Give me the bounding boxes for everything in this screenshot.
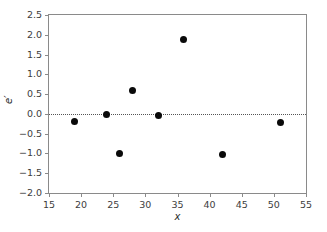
- x-axis-tick: [210, 193, 211, 197]
- y-axis-tick-label: −1.5: [19, 168, 42, 178]
- x-axis-tick-label: 55: [300, 200, 312, 210]
- y-axis-tick-label: −2.0: [19, 188, 42, 198]
- x-axis-tick-label: 40: [204, 200, 216, 210]
- y-axis-tick: [45, 134, 49, 135]
- scatter-plot-figure: −2.0−1.5−1.0−0.50.00.51.01.52.02.5152025…: [0, 0, 327, 232]
- y-axis-tick-label: −1.0: [19, 149, 42, 159]
- y-axis-tick-label: 2.5: [27, 10, 42, 20]
- x-axis-tick: [306, 193, 307, 197]
- data-point: [103, 111, 110, 118]
- x-axis-tick: [81, 193, 82, 197]
- data-point: [277, 119, 284, 126]
- y-axis-tick-label: −0.5: [19, 129, 42, 139]
- x-axis-tick-label: 25: [107, 200, 119, 210]
- x-axis-tick-label: 45: [236, 200, 248, 210]
- x-axis-tick-label: 30: [139, 200, 151, 210]
- y-axis-tick-label: 1.5: [27, 50, 42, 60]
- data-point: [129, 87, 136, 94]
- x-axis-tick: [145, 193, 146, 197]
- zero-reference-line: [49, 114, 306, 115]
- y-axis-tick: [45, 173, 49, 174]
- y-axis-tick: [45, 55, 49, 56]
- y-axis-tick: [45, 114, 49, 115]
- x-axis-tick-label: 15: [43, 200, 55, 210]
- data-point: [116, 150, 123, 157]
- y-axis-title: e′: [4, 96, 14, 104]
- x-axis-tick-label: 35: [171, 200, 183, 210]
- x-axis-tick: [178, 193, 179, 197]
- y-axis-tick: [45, 35, 49, 36]
- x-axis-tick-label: 50: [268, 200, 280, 210]
- x-axis-tick: [242, 193, 243, 197]
- y-axis-tick: [45, 153, 49, 154]
- x-axis-tick: [113, 193, 114, 197]
- data-point: [180, 36, 187, 43]
- y-axis-tick: [45, 15, 49, 16]
- x-axis-title: x: [48, 212, 307, 222]
- plot-area: −2.0−1.5−1.0−0.50.00.51.01.52.02.5152025…: [48, 14, 307, 194]
- y-axis-tick: [45, 74, 49, 75]
- y-axis-tick-label: 2.0: [27, 30, 42, 40]
- y-axis-tick-label: 1.0: [27, 70, 42, 80]
- y-axis-tick: [45, 94, 49, 95]
- x-axis-tick-label: 20: [75, 200, 87, 210]
- data-point: [71, 118, 78, 125]
- y-axis-tick-label: 0.5: [27, 89, 42, 99]
- x-axis-tick: [49, 193, 50, 197]
- data-point: [219, 151, 226, 158]
- x-axis-tick: [274, 193, 275, 197]
- y-axis-tick-label: 0.0: [27, 109, 42, 119]
- data-point: [155, 112, 162, 119]
